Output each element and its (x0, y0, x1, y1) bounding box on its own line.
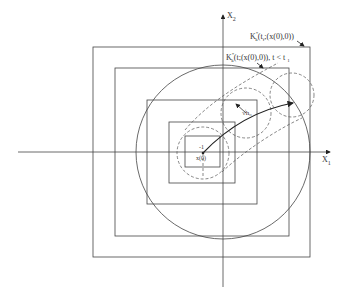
tube-lower-boundary (222, 118, 302, 172)
innermost-square (185, 136, 220, 167)
radius-label: √h₀ (242, 110, 252, 117)
x-axis-label: X1 (322, 156, 331, 166)
origin-point (202, 152, 205, 155)
origin-top-label: -1 (199, 144, 204, 150)
inner-label-pointer (257, 63, 263, 68)
small-circle-3 (270, 73, 314, 117)
diagram-canvas (0, 0, 346, 302)
tube-upper-boundary (185, 63, 278, 130)
inner-set-label: K*k(t;(x(0),0)), t < t1 (226, 52, 290, 63)
outer-set-label: K*k(tf;(x(0),0)) (250, 31, 294, 42)
outer-label-pointer (297, 41, 304, 46)
y-axis-label: X2 (227, 12, 236, 22)
origin-bottom-label: x(0) (196, 155, 206, 161)
